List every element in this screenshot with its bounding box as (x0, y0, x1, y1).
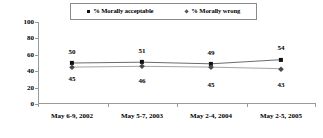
data-point-wrong-3 (279, 67, 283, 71)
value-label-acceptable-1: 51 (139, 48, 146, 55)
y-tick-label-60: 60 (27, 51, 34, 58)
line-chart: % Morally acceptable % Morally wrong 100… (0, 0, 323, 138)
x-axis-label-0: May 6-9, 2002 (51, 113, 93, 120)
x-tick-2 (177, 104, 178, 107)
y-tick-label-80: 80 (27, 35, 34, 42)
diamond-marker-icon (69, 65, 74, 70)
x-axis-label-1: May 5-7, 2003 (121, 113, 163, 120)
value-label-wrong-1: 46 (139, 78, 146, 85)
diamond-marker-icon (139, 64, 144, 69)
legend-entry-morally-acceptable: % Morally acceptable (87, 8, 154, 15)
square-marker-icon (87, 10, 90, 13)
x-axis-label-2: May 2-4, 2004 (190, 113, 232, 120)
line-morally-acceptable (72, 60, 281, 64)
chart-legend: % Morally acceptable % Morally wrong (70, 3, 257, 20)
x-tick-0 (38, 104, 39, 107)
series-lines (38, 22, 316, 104)
value-label-acceptable-0: 50 (69, 49, 76, 56)
square-marker-icon (279, 58, 283, 62)
y-tick-label-100: 100 (24, 19, 35, 26)
data-point-acceptable-3 (279, 58, 283, 62)
data-point-wrong-0 (70, 65, 74, 69)
x-axis-label-3: May 2-5, 2005 (260, 113, 302, 120)
value-label-acceptable-2: 49 (208, 50, 215, 57)
legend-entry-morally-wrong: % Morally wrong (185, 8, 240, 15)
value-label-acceptable-3: 54 (278, 45, 285, 52)
value-label-wrong-3: 43 (278, 82, 285, 89)
diamond-marker-icon (278, 66, 283, 71)
x-tick-1 (108, 104, 109, 107)
x-tick-4 (315, 104, 316, 107)
value-label-wrong-2: 45 (208, 82, 215, 89)
x-tick-3 (247, 104, 248, 107)
data-point-wrong-2 (209, 65, 213, 69)
legend-label-morally-wrong: % Morally wrong (191, 8, 240, 15)
data-point-wrong-1 (140, 65, 144, 69)
line-morally-wrong (72, 66, 281, 68)
legend-label-morally-acceptable: % Morally acceptable (93, 8, 153, 15)
y-tick-label-40: 40 (27, 68, 34, 75)
y-tick-label-20: 20 (27, 84, 34, 91)
diamond-marker-icon (184, 9, 189, 14)
plot-area: 100 80 60 40 20 0 50 51 (38, 22, 316, 104)
diamond-marker-icon (208, 65, 213, 70)
y-tick-label-0: 0 (31, 101, 35, 108)
value-label-wrong-0: 45 (69, 76, 76, 83)
